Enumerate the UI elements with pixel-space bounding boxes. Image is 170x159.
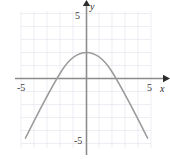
y-axis-tick-label-positive-5: 5	[75, 11, 80, 21]
y-axis-label: y	[90, 2, 94, 12]
y-axis-tick-label-negative-5: -5	[74, 136, 82, 146]
x-axis-tick-label-negative-5: -5	[17, 83, 25, 93]
parabola-figure: -5 5 5 -5 x y	[0, 0, 170, 159]
plot-canvas	[0, 0, 170, 159]
x-axis-label: x	[160, 84, 164, 94]
x-axis-tick-label-positive-5: 5	[147, 83, 152, 93]
x-axis-arrowhead	[163, 75, 170, 82]
